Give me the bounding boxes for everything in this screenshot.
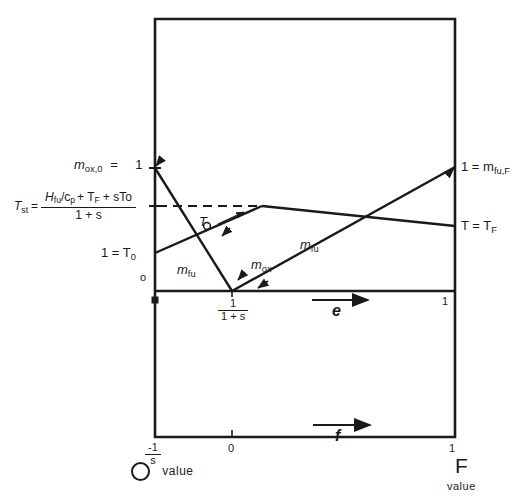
middle-axis-tick-stoich: 1 1 + s <box>218 298 248 322</box>
tst-denominator: 1 + s <box>41 207 136 223</box>
middle-axis <box>152 291 456 304</box>
stoich-fraction: 1 1 + s <box>218 298 248 322</box>
label-mox0: mox,0 = 1 <box>74 158 143 174</box>
middle-axis-arrow-label: e <box>332 303 341 319</box>
label-curve-mox: mox <box>251 258 272 274</box>
label-tst-formula: Tst= Hfu/cp+ TF+ sTo 1 + s <box>14 191 136 223</box>
label-T-F: T = TF <box>461 219 497 235</box>
label-origin: o <box>140 272 146 283</box>
label-curve-mfu-left: mfu <box>177 263 196 279</box>
middle-axis-tick-right: 1 <box>442 296 448 307</box>
bottom-axis-arrow-label: f <box>335 428 340 444</box>
bottom-axis-tick-right: 1 <box>449 443 455 454</box>
left-axis-marker <box>152 297 159 304</box>
bottom-axis-tick-center: 0 <box>228 443 234 454</box>
tst-fraction: Hfu/cp+ TF+ sTo 1 + s <box>41 191 136 223</box>
label-mfu-F: 1 = mfu,F <box>461 160 510 176</box>
tst-numerator: Hfu/cp+ TF+ sTo <box>41 191 136 207</box>
label-curve-T: T <box>199 215 207 228</box>
legend-fuel-text: value <box>447 481 476 492</box>
diagram-canvas <box>0 0 521 503</box>
legend-oxidizer: value <box>131 462 194 481</box>
label-curve-mfu-right: mfu <box>300 238 319 254</box>
label-t0: 1 = T0 <box>101 246 136 262</box>
oxidizer-circle-icon <box>131 462 150 481</box>
legend-fuel-symbol: F <box>455 455 468 476</box>
flame-structure-diagram: mox,0 = 1 Tst= Hfu/cp+ TF+ sTo 1 + s 1 =… <box>0 0 521 503</box>
